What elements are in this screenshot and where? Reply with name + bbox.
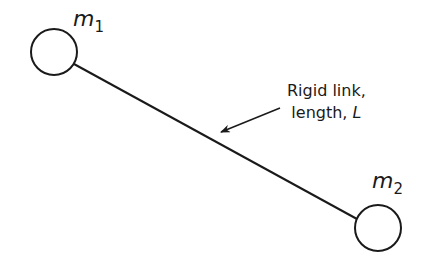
rigid-link-annotation: Rigid link, length, L	[287, 80, 366, 124]
annotation-length-text: length,	[291, 103, 347, 122]
mass-1-circle	[31, 29, 77, 75]
mass-2-symbol: m	[372, 168, 393, 193]
diagram-canvas: m1 m2 Rigid link, length, L	[0, 0, 431, 264]
mass-2-subscript: 2	[393, 180, 403, 198]
annotation-length-variable: L	[353, 103, 362, 122]
annotation-line-1: Rigid link,	[287, 80, 366, 102]
annotation-line-2: length, L	[287, 102, 366, 124]
diagram-svg	[0, 0, 431, 264]
pointer-arrow	[221, 108, 280, 132]
mass-1-label: m1	[73, 6, 104, 36]
mass-2-circle	[355, 205, 401, 251]
mass-2-label: m2	[372, 168, 403, 198]
mass-1-subscript: 1	[94, 18, 104, 36]
mass-1-symbol: m	[73, 6, 94, 31]
